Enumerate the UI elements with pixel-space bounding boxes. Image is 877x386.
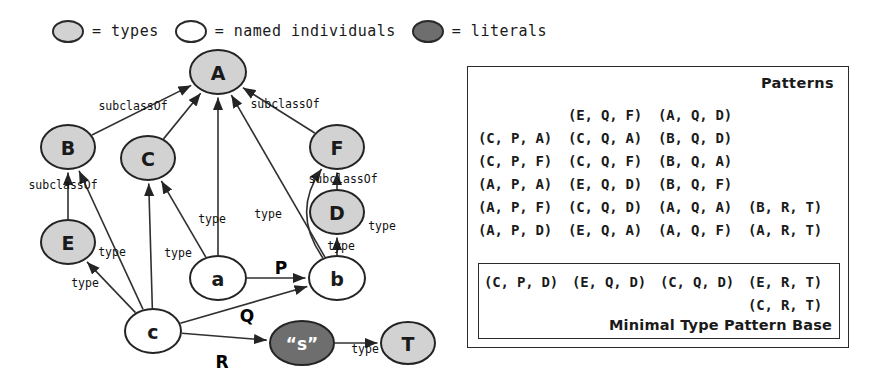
- minimal-pattern-cell: (C, R, T): [748, 297, 836, 313]
- edge-label-c-b: Q: [240, 306, 254, 326]
- legend-item-literals: = literals: [412, 20, 563, 43]
- graph-node-E[interactable]: E: [41, 220, 95, 264]
- diagram-root: = types = named individuals = literals A…: [0, 0, 877, 386]
- node-label-F: F: [331, 137, 344, 159]
- pattern-row: (A, P, A)(E, Q, D)(B, Q, F): [478, 172, 840, 195]
- literals-swatch-icon: [412, 20, 444, 43]
- pattern-cell: (A, P, F): [478, 199, 568, 215]
- edge-label-F-A: subclassOf: [250, 97, 319, 111]
- types-swatch-icon: [52, 20, 84, 43]
- edge-label-a-b: P: [275, 258, 287, 278]
- graph-node-B[interactable]: B: [41, 125, 95, 169]
- pattern-row: (A, P, F)(C, Q, D)(A, Q, A)(B, R, T): [478, 195, 840, 218]
- minimal-pattern-row: (C, R, T): [484, 293, 836, 316]
- pattern-cell: (C, Q, F): [568, 153, 658, 169]
- pattern-cell: (A, Q, D): [658, 107, 748, 123]
- legend-label-literals: = literals: [452, 22, 547, 40]
- pattern-cell: (C, Q, D): [568, 199, 658, 215]
- graph-node-a[interactable]: a: [190, 256, 246, 300]
- legend-label-named-individuals: = named individuals: [215, 22, 396, 40]
- minimal-pattern-cell: (C, P, D): [484, 274, 572, 290]
- graph-node-s[interactable]: “s”: [270, 321, 334, 365]
- pattern-cell: (A, P, D): [478, 222, 568, 238]
- edge-label-c-B: type: [98, 245, 126, 259]
- minimal-pattern-row: (C, P, D)(E, Q, D)(C, Q, D)(E, R, T): [484, 270, 836, 293]
- graph-node-F[interactable]: F: [310, 125, 364, 169]
- graph-node-b[interactable]: b: [309, 256, 365, 300]
- graph-node-A[interactable]: A: [190, 50, 246, 94]
- pattern-cell: (A, P, A): [478, 176, 568, 192]
- pattern-cell: (B, Q, F): [658, 176, 748, 192]
- edge-label-B-A: subclassOf: [98, 99, 167, 113]
- pattern-cell: (A, Q, A): [658, 199, 748, 215]
- edge-label-c-s: R: [215, 352, 228, 372]
- node-label-A: A: [211, 62, 226, 84]
- pattern-row: (A, P, D)(E, Q, A)(A, Q, F)(A, R, T): [478, 218, 840, 241]
- minimal-pattern-cell: (E, R, T): [748, 274, 836, 290]
- pattern-row: (E, Q, F)(A, Q, D): [478, 103, 840, 126]
- pattern-row: (C, P, F)(C, Q, F)(B, Q, A): [478, 149, 840, 172]
- minimal-type-pattern-base-box: (C, P, D)(E, Q, D)(C, Q, D)(E, R, T) (C,…: [478, 263, 840, 339]
- patterns-grid: (E, Q, F)(A, Q, D) (C, P, A)(C, Q, A)(B,…: [478, 103, 840, 241]
- pattern-cell: (B, Q, D): [658, 130, 748, 146]
- minimal-pattern-cell: (E, Q, D): [572, 274, 660, 290]
- minimal-pattern-cell: (C, Q, D): [660, 274, 748, 290]
- edge-label-a-C: type: [164, 246, 192, 260]
- node-label-B: B: [61, 137, 75, 159]
- pattern-cell: (C, P, A): [478, 130, 568, 146]
- graph-node-D[interactable]: D: [310, 190, 364, 234]
- edge-label-D-F: subclassOf: [308, 172, 377, 186]
- node-label-T: T: [402, 333, 415, 355]
- pattern-cell: (B, Q, A): [658, 153, 748, 169]
- named-individuals-swatch-icon: [175, 20, 207, 43]
- edge-label-b-A: type: [254, 207, 282, 221]
- pattern-cell: (A, Q, F): [658, 222, 748, 238]
- node-label-b: b: [330, 268, 344, 290]
- legend: = types = named individuals = literals: [52, 14, 563, 48]
- pattern-cell: (E, Q, D): [568, 176, 658, 192]
- node-label-D: D: [329, 202, 345, 224]
- graph-edge-C-to-A: [164, 93, 201, 139]
- node-label-s: “s”: [286, 334, 318, 354]
- legend-label-types: = types: [92, 22, 159, 40]
- pattern-row: (C, P, A)(C, Q, A)(B, Q, D): [478, 126, 840, 149]
- node-label-c: c: [147, 321, 158, 343]
- rdf-graph: ABCFDETabc“s” subclassOfsubclassOfsubcla…: [0, 46, 462, 386]
- graph-node-T[interactable]: T: [381, 322, 435, 364]
- edge-label-b-F: type: [368, 219, 396, 233]
- graph-edge-c-to-s: [182, 333, 267, 340]
- legend-item-types: = types: [52, 20, 175, 43]
- minimal-type-pattern-base-grid: (C, P, D)(E, Q, D)(C, Q, D)(E, R, T) (C,…: [484, 270, 836, 316]
- graph-node-c[interactable]: c: [125, 309, 181, 353]
- pattern-cell: (B, R, T): [748, 199, 838, 215]
- edge-label-s-T: type: [351, 342, 379, 356]
- pattern-cell: (C, P, F): [478, 153, 568, 169]
- node-label-C: C: [141, 148, 155, 170]
- graph-edge-c-to-C: [149, 183, 153, 308]
- pattern-cell: (C, Q, A): [568, 130, 658, 146]
- edge-label-c-E: type: [71, 276, 99, 290]
- edge-label-b-D: type: [327, 239, 355, 253]
- legend-item-named-individuals: = named individuals: [175, 20, 412, 43]
- node-label-E: E: [62, 232, 75, 254]
- graph-node-C[interactable]: C: [121, 136, 175, 180]
- pattern-cell: (E, Q, F): [568, 107, 658, 123]
- edge-label-E-B: subclassOf: [28, 178, 97, 192]
- node-layer: ABCFDETabc“s”: [41, 50, 435, 365]
- minimal-type-pattern-base-caption: Minimal Type Pattern Base: [609, 317, 832, 333]
- node-label-a: a: [212, 268, 225, 290]
- pattern-cell: (E, Q, A): [568, 222, 658, 238]
- edge-label-a-A: type: [198, 212, 226, 226]
- patterns-panel: Patterns (E, Q, F)(A, Q, D) (C, P, A)(C,…: [467, 66, 849, 348]
- patterns-title: Patterns: [761, 75, 834, 91]
- pattern-cell: (A, R, T): [748, 222, 838, 238]
